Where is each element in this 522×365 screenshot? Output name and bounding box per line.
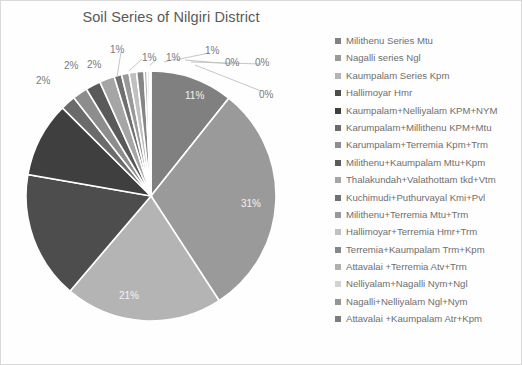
legend-item-label: Kaumpalam+Nelliyalam KPM+NYM <box>346 105 497 117</box>
legend-swatch-icon <box>335 299 341 305</box>
legend-item-label: Milithenu+Terremia Mtu+Trm <box>346 209 468 221</box>
legend-swatch-icon <box>335 316 341 322</box>
legend-item-label: Kuchimudi+Puthurvayal Kmi+Pvl <box>346 192 485 204</box>
legend-item[interactable]: Kuchimudi+Puthurvayal Kmi+Pvl <box>335 192 521 205</box>
pie-slices <box>26 71 276 321</box>
legend-item-label: Karumpalam+Terremia Kpm+Trm <box>346 139 488 151</box>
pie-data-label: 1% <box>205 46 219 56</box>
legend-item-label: Kaumpalam Series Kpm <box>346 70 449 82</box>
legend-item[interactable]: Nelliyalam+Nagalli Nym+Ngl <box>335 278 521 291</box>
pie-data-label: 2% <box>87 60 101 70</box>
chart-title: Soil Series of Nilgiri District <box>1 9 341 25</box>
legend-swatch-icon <box>335 142 341 148</box>
legend-item-label: Milithenu+Kaumpalam Mtu+Kpm <box>346 157 485 169</box>
legend-item-label: Attavalai +Terremia Atv+Trm <box>346 261 467 273</box>
legend-item-label: Nagalli series Ngl <box>346 52 421 64</box>
legend-item[interactable]: Nagalli+Nelliyalam Ngl+Nym <box>335 296 521 309</box>
chart-container: Soil Series of Nilgiri District 11%31%21… <box>0 0 522 365</box>
legend-item[interactable]: Milithenu Series Mtu <box>335 35 521 48</box>
legend-item-label: Terremia+Kaumpalam Trm+Kpm <box>346 244 485 256</box>
legend-item-label: Nelliyalam+Nagalli Nym+Ngl <box>346 278 468 290</box>
pie-data-label: 31% <box>241 199 261 209</box>
legend-item[interactable]: Thalakundah+Valathottam tkd+Vtm <box>335 174 521 187</box>
legend-item[interactable]: Karumpalam+Millithenu KPM+Mtu <box>335 122 521 135</box>
legend-swatch-icon <box>335 90 341 96</box>
pie-data-label: 0% <box>255 58 269 68</box>
legend-swatch-icon <box>335 55 341 61</box>
legend-item[interactable]: Kaumpalam+Nelliyalam KPM+NYM <box>335 105 521 118</box>
legend-item[interactable]: Kaumpalam Series Kpm <box>335 70 521 83</box>
pie-data-label: 1% <box>166 53 180 63</box>
legend-item[interactable]: Nagalli series Ngl <box>335 52 521 65</box>
legend-item[interactable]: Terremia+Kaumpalam Trm+Kpm <box>335 244 521 257</box>
legend-swatch-icon <box>335 177 341 183</box>
legend-item[interactable]: Milithenu+Terremia Mtu+Trm <box>335 209 521 222</box>
pie-chart-svg <box>9 29 329 361</box>
pie-data-label: 21% <box>119 291 139 301</box>
legend-item[interactable]: Hallimoyar Hmr <box>335 87 521 100</box>
legend-swatch-icon <box>335 73 341 79</box>
legend-item[interactable]: Milithenu+Kaumpalam Mtu+Kpm <box>335 157 521 170</box>
pie-plot-area: 11%31%21%2%2%2%1%1%1%1%0%0%0% <box>9 29 329 361</box>
legend-item-label: Karumpalam+Millithenu KPM+Mtu <box>346 122 492 134</box>
legend-item[interactable]: Attavalai +Terremia Atv+Trm <box>335 261 521 274</box>
pie-data-label: 2% <box>36 76 50 86</box>
legend-item-label: Attavalai +Kaumpalam Atr+Kpm <box>346 313 482 325</box>
pie-data-label: 1% <box>142 53 156 63</box>
pie-data-label: 2% <box>64 61 78 71</box>
legend-swatch-icon <box>335 195 341 201</box>
legend-swatch-icon <box>335 212 341 218</box>
legend-item-label: Hallimoyar Hmr <box>346 87 412 99</box>
legend-item[interactable]: Hallimoyar+Terremia Hmr+Trm <box>335 226 521 239</box>
legend-item-label: Milithenu Series Mtu <box>346 35 433 47</box>
legend-item[interactable]: Attavalai +Kaumpalam Atr+Kpm <box>335 313 521 326</box>
pie-data-label: 0% <box>259 90 273 100</box>
legend-swatch-icon <box>335 38 341 44</box>
legend-item-label: Thalakundah+Valathottam tkd+Vtm <box>346 174 496 186</box>
legend-swatch-icon <box>335 160 341 166</box>
legend-swatch-icon <box>335 281 341 287</box>
legend-item-label: Nagalli+Nelliyalam Ngl+Nym <box>346 296 468 308</box>
legend-item[interactable]: Karumpalam+Terremia Kpm+Trm <box>335 139 521 152</box>
chart-legend: Milithenu Series MtuNagalli series NglKa… <box>335 35 521 331</box>
legend-swatch-icon <box>335 125 341 131</box>
legend-swatch-icon <box>335 108 341 114</box>
pie-data-label: 0% <box>225 58 239 68</box>
legend-swatch-icon <box>335 229 341 235</box>
legend-swatch-icon <box>335 264 341 270</box>
legend-swatch-icon <box>335 247 341 253</box>
pie-data-label: 11% <box>185 91 204 101</box>
legend-item-label: Hallimoyar+Terremia Hmr+Trm <box>346 226 477 238</box>
pie-data-label: 1% <box>110 45 124 55</box>
